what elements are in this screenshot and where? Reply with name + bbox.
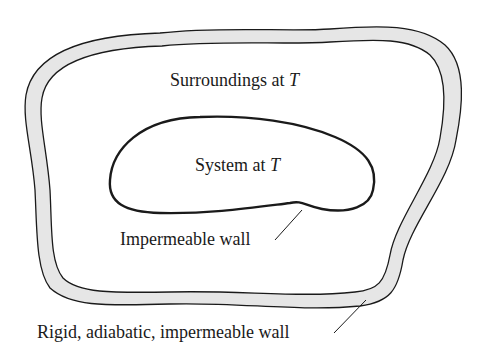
outer-wall-label-text: Rigid, adiabatic, impermeable wall <box>37 322 289 342</box>
inner-wall-leader-line <box>275 210 302 240</box>
inner-wall-label-text: Impermeable wall <box>120 229 250 249</box>
inner-wall-label: Impermeable wall <box>120 230 250 248</box>
surroundings-label-text: Surroundings at <box>170 70 289 90</box>
surroundings-temperature-variable: T <box>289 70 299 90</box>
outer-wall-label: Rigid, adiabatic, impermeable wall <box>37 323 289 341</box>
system-label: System at T <box>195 156 280 174</box>
system-temperature-variable: T <box>270 155 280 175</box>
system-label-text: System at <box>195 155 270 175</box>
surroundings-label: Surroundings at T <box>170 71 299 89</box>
